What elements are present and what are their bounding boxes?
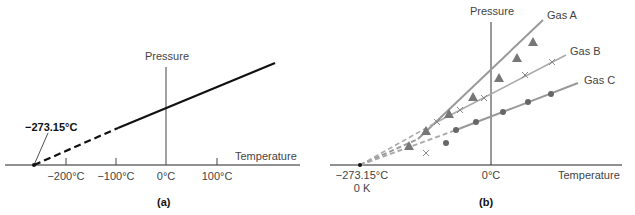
y-axis-label: Pressure (470, 5, 514, 17)
tick-label: −200°C (47, 170, 84, 182)
gas-b-markers (423, 59, 555, 156)
gas-b-label: Gas B (570, 45, 601, 57)
x-axis-label: Temperature (235, 150, 297, 162)
triangle-marker (528, 37, 538, 46)
absolute-zero-point (358, 163, 362, 167)
tick-label-zero: 0°C (482, 169, 501, 181)
triangle-marker (494, 73, 504, 82)
annotation-label: −273.15°C (25, 121, 77, 133)
triangle-marker (512, 53, 522, 62)
gas-c-label: Gas C (584, 74, 615, 86)
gas-a-label: Gas A (547, 9, 578, 21)
tick-label: −100°C (97, 170, 134, 182)
circle-marker (500, 109, 506, 115)
triangle-marker (468, 92, 478, 101)
tick-label: 100°C (202, 170, 233, 182)
y-axis-label: Pressure (145, 50, 189, 62)
x-axis-label: Temperature (558, 169, 620, 181)
circle-marker (548, 91, 554, 97)
circle-marker (525, 99, 531, 105)
gas-a-markers (404, 37, 538, 150)
figure: −273.15°C Pressure Temperature −200°C −1… (0, 0, 635, 215)
panel-a: −273.15°C Pressure Temperature −200°C −1… (5, 50, 300, 208)
circle-marker (453, 127, 459, 133)
data-line (118, 63, 275, 128)
circle-marker (473, 119, 479, 125)
cross-marker (423, 150, 429, 156)
cross-marker (457, 107, 463, 113)
caption-a: (a) (157, 196, 171, 208)
panel-b: Pressure Gas A Gas B Gas C Temperature 0… (330, 5, 622, 208)
circle-marker (443, 140, 449, 146)
tick-label-kelvin: 0 K (354, 182, 371, 194)
tick-label-absolute-zero: −273.15°C (336, 169, 388, 181)
extrapolation-line (34, 128, 118, 165)
caption-b: (b) (479, 196, 493, 208)
tick-label: 0°C (157, 170, 176, 182)
